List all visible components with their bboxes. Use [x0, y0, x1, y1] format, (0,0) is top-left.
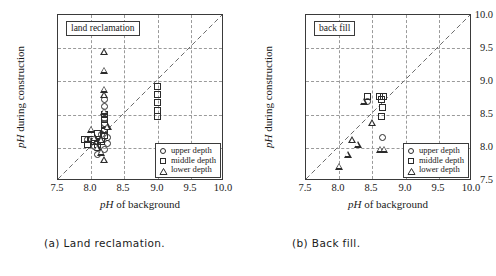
circle-marker-icon	[159, 147, 168, 156]
data-point-square	[378, 96, 385, 103]
x-axis-label: pH of background	[57, 198, 223, 210]
data-point-triangle	[100, 108, 108, 115]
square-marker-icon	[159, 156, 168, 165]
y-axis-label-rest-b: during construction	[262, 46, 274, 135]
circle-marker-icon-b	[407, 147, 416, 156]
data-point-square	[378, 113, 385, 120]
panel-title-a: land reclamation	[66, 21, 140, 36]
y-axis-label-b: pH during construction	[262, 32, 274, 162]
data-point-triangle	[91, 134, 99, 141]
x-axis-label-rest-b: of background	[361, 198, 428, 210]
data-point-square	[154, 113, 161, 120]
legend-a: upper depth middle depth lower depth	[155, 143, 221, 178]
y-axis-label-rest: during construction	[14, 46, 26, 135]
caption-a: (a) Land reclamation.	[44, 237, 165, 249]
legend-label-lower: lower depth	[171, 165, 212, 175]
data-point-triangle	[97, 149, 105, 156]
triangle-marker-icon-b	[407, 166, 416, 175]
y-axis-label: pH during construction	[14, 32, 26, 162]
legend-label-lower-b: lower depth	[419, 165, 460, 175]
x-axis-label-italic-b: pH	[348, 198, 361, 210]
x-tick-b-10.0: 10.0	[451, 183, 491, 193]
x-axis-label-b: pH of background	[305, 198, 471, 210]
data-point-square	[154, 99, 161, 106]
data-point-triangle	[100, 156, 108, 163]
data-point-triangle	[354, 141, 362, 148]
y-axis-label-italic-b: pH	[262, 135, 274, 148]
data-point-triangle	[344, 151, 352, 158]
data-point-triangle	[368, 119, 376, 126]
legend-b: upper depth middle depth lower depth	[403, 143, 469, 178]
triangle-marker-icon	[159, 166, 168, 175]
plot-area-b: back fill upper depth middle depth	[305, 14, 471, 180]
data-point-triangle	[100, 67, 108, 74]
data-point-triangle	[380, 146, 388, 153]
legend-row-lower: lower depth	[159, 165, 216, 175]
data-point-square	[154, 91, 161, 98]
caption-b: (b) Back fill.	[292, 237, 360, 249]
x-axis-label-rest: of background	[113, 198, 180, 210]
plot-area-a: land reclamation upper depth middle dept…	[57, 14, 223, 180]
figure-root: pH during construction 10.0 9.5 9.0 8.5 …	[0, 0, 496, 276]
legend-row-lower-b: lower depth	[407, 165, 464, 175]
data-point-triangle	[100, 48, 108, 55]
data-point-triangle	[100, 91, 108, 98]
data-point-triangle	[360, 98, 368, 105]
panel-back-fill: pH during construction 10.0 9.5 9.0 8.5 …	[248, 0, 496, 276]
panel-title-b: back fill	[314, 21, 355, 36]
square-marker-icon-b	[407, 156, 416, 165]
data-point-triangle	[335, 163, 343, 170]
data-point-triangle	[104, 123, 112, 130]
data-point-square	[379, 104, 386, 111]
data-point-triangle	[87, 126, 95, 133]
data-point-square	[154, 83, 161, 90]
x-tick-10.0: 10.0	[203, 183, 243, 193]
x-axis-label-italic: pH	[100, 198, 113, 210]
panel-land-reclamation: pH during construction 10.0 9.5 9.0 8.5 …	[0, 0, 248, 276]
y-axis-label-italic: pH	[14, 135, 26, 148]
